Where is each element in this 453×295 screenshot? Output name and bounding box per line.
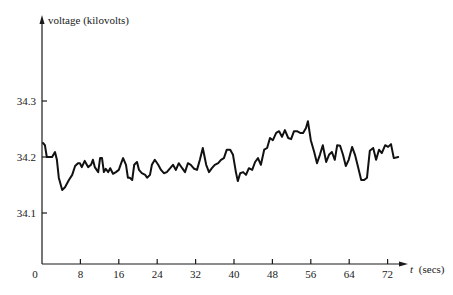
y-tick-label: 34.1 — [17, 207, 36, 219]
x-tick-label: 16 — [113, 268, 125, 280]
x-tick-label: 32 — [190, 268, 201, 280]
x-tick-label: 72 — [382, 268, 393, 280]
x-tick-label: 8 — [78, 268, 84, 280]
x-tick-label: 64 — [344, 268, 356, 280]
x-ticks: 081624324048566472 — [32, 259, 393, 280]
x-axis-arrow-icon — [399, 262, 408, 267]
x-axis-unit: (secs) — [419, 263, 445, 276]
y-axis-title: voltage (kilovolts) — [48, 14, 129, 27]
y-tick-label: 34.3 — [17, 95, 37, 107]
x-tick-label: 0 — [32, 268, 38, 280]
voltage-time-chart: voltage (kilovolts) t (secs) 34.134.234.… — [0, 0, 453, 295]
x-tick-label: 40 — [229, 268, 241, 280]
y-tick-label: 34.2 — [17, 151, 36, 163]
x-axis-title: t (secs) — [410, 263, 445, 276]
voltage-series-line — [43, 121, 398, 190]
x-tick-label: 56 — [305, 268, 317, 280]
x-axis-var: t — [410, 263, 414, 275]
y-axis-arrow-icon — [40, 15, 45, 24]
x-tick-label: 48 — [267, 268, 279, 280]
x-tick-label: 24 — [152, 268, 164, 280]
